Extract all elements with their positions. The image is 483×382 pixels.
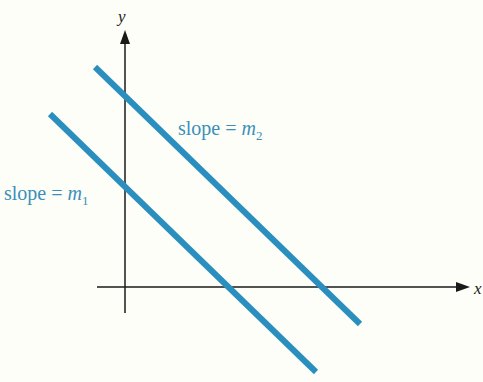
parallel-lines-diagram: y x slope = m2 slope = m1 xyxy=(0,0,483,382)
y-axis-arrow-icon xyxy=(120,30,130,44)
y-axis-label: y xyxy=(116,7,126,26)
x-axis-label: x xyxy=(473,279,482,298)
slope-m2-label: slope = m2 xyxy=(178,117,262,143)
x-axis-arrow-icon xyxy=(456,282,470,292)
slope-m1-label: slope = m1 xyxy=(4,182,88,208)
